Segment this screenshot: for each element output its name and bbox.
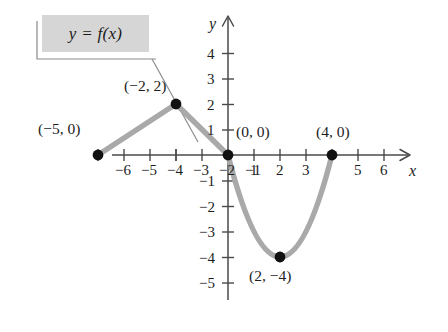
- point-label-2-minus4: (2, −4): [249, 268, 291, 284]
- y-tick-label-minus1: −1: [199, 174, 215, 189]
- point-label-0-0: (0, 0): [236, 124, 270, 140]
- x-tick-label-3: 3: [302, 163, 310, 178]
- function-label-box: y = f(x): [42, 15, 149, 52]
- x-tick-label-5: 5: [354, 163, 362, 178]
- x-tick-label-minus5: −5: [141, 163, 157, 178]
- y-tick-label-3: 3: [207, 72, 215, 87]
- y-tick-label-minus2: −2: [199, 200, 215, 215]
- x-tick-label-1: 1: [250, 163, 258, 178]
- x-tick-label-6: 6: [380, 163, 388, 178]
- x-tick-label-minus6: −6: [115, 163, 131, 178]
- point-0-0: [223, 150, 234, 161]
- y-tick-label-minus4: −4: [199, 251, 215, 266]
- function-graph-figure: y = f(x) −6 −5 −4 −3 −2 −1 1 2 3 5 6 4 3…: [0, 0, 448, 332]
- y-tick-label-1: 1: [207, 123, 215, 138]
- x-tick-label-minus2: −2: [219, 163, 235, 178]
- point-label-4-0: (4, 0): [316, 124, 350, 140]
- x-tick-label-minus4: −4: [167, 163, 183, 178]
- function-curve-group: [98, 104, 332, 257]
- y-tick-label-4: 4: [207, 47, 215, 62]
- y-axis-label: y: [209, 16, 216, 32]
- y-tick-label-minus5: −5: [199, 276, 215, 291]
- y-tick-label-minus3: −3: [199, 225, 215, 240]
- x-axis-label: x: [409, 163, 416, 179]
- point-2-minus4: [275, 252, 286, 263]
- point-4-0: [327, 150, 338, 161]
- point-label-minus5-0: (−5, 0): [38, 121, 80, 137]
- y-tick-label-2: 2: [207, 98, 215, 113]
- point-label-minus2-2: (−2, 2): [124, 78, 166, 94]
- point-minus2-2: [171, 99, 182, 110]
- point-minus5-0: [93, 150, 104, 161]
- x-tick-label-2: 2: [276, 163, 284, 178]
- function-label-text: y = f(x): [69, 24, 123, 44]
